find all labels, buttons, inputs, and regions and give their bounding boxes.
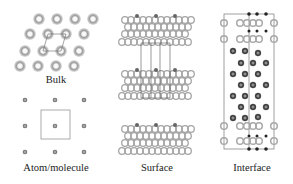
- interface-label: Interface: [233, 162, 270, 173]
- interface-supercell-panel: [221, 12, 278, 151]
- surface-label: Surface: [141, 162, 173, 173]
- bulk-label: Bulk: [46, 74, 66, 85]
- atom-molecule-panel: [23, 98, 87, 155]
- materials-models-figure: [0, 0, 293, 184]
- bulk-lattice-panel: [14, 13, 99, 72]
- surface-slab-panel: [119, 14, 195, 154]
- atom-molecule-label: Atom/molecule: [23, 162, 88, 173]
